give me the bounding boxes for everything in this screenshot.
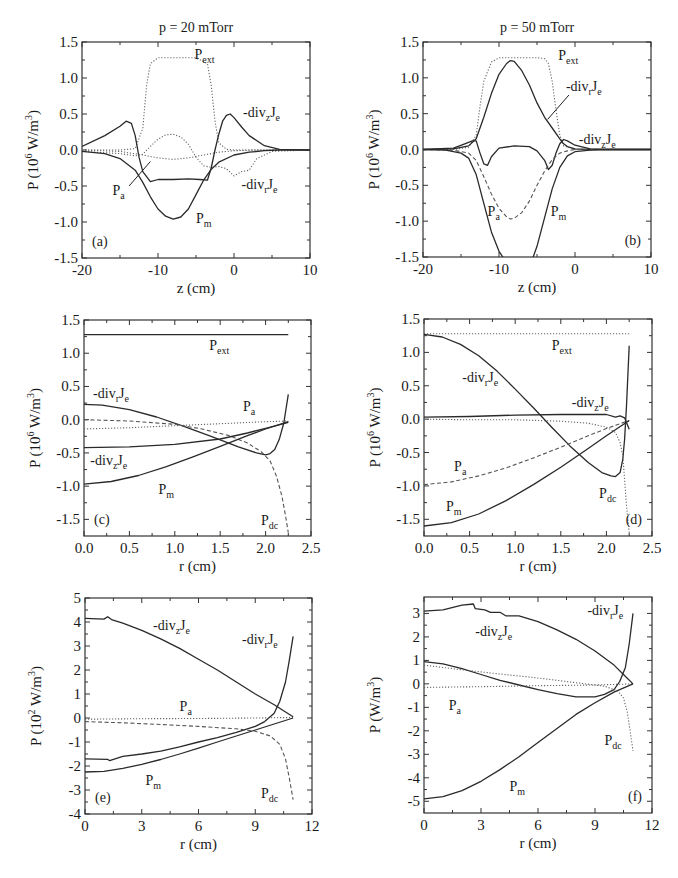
y-tick-label: -5 xyxy=(408,793,421,809)
x-tick-label: 2.5 xyxy=(643,540,662,556)
series-div-r-j-e xyxy=(85,636,293,760)
x-tick-label: 0.0 xyxy=(75,540,94,556)
label-p-a: Pa xyxy=(454,459,467,477)
series-p-a xyxy=(424,421,629,485)
label-p-ext: Pext xyxy=(194,47,214,65)
label-p-ext: Pext xyxy=(552,338,572,356)
column-title-20mtorr: p = 20 mTorr xyxy=(159,20,234,35)
series-p-a xyxy=(423,150,651,220)
panel-f: 036912-5-4-3-2-10123r (cm)P (W/m3)-divzJ… xyxy=(365,597,660,852)
x-tick-label: 3 xyxy=(138,818,146,834)
y-tick-label: -1.5 xyxy=(56,511,80,527)
y-tick-label: 1.5 xyxy=(61,312,80,328)
y-tick-label: 2 xyxy=(74,662,82,678)
label-p-a: Pa xyxy=(243,399,256,417)
x-tick-label: 1.0 xyxy=(165,540,184,556)
y-tick-label: 0.0 xyxy=(401,411,420,427)
y-tick-label: 5 xyxy=(74,590,82,606)
x-tick-label: 6 xyxy=(534,817,542,833)
y-tick-label: -0.5 xyxy=(56,445,80,461)
label-p-a: Pa xyxy=(449,698,462,716)
figure: p = 20 mTorr p = 50 mTorr -20-10010-1.5-… xyxy=(0,0,678,878)
x-tick-label: 10 xyxy=(644,261,659,277)
label-div-r-j: -divrJe xyxy=(566,79,602,97)
panel-label: (f) xyxy=(628,789,642,805)
y-tick-label: 0.5 xyxy=(61,378,80,394)
panel-c: 0.00.51.01.52.02.5-1.5-1.0-0.50.00.51.01… xyxy=(25,312,320,575)
y-tick-label: -1.5 xyxy=(395,249,419,265)
x-tick-label: 12 xyxy=(305,818,320,834)
x-tick-label: 0 xyxy=(230,262,238,278)
x-tick-label: 2.0 xyxy=(256,540,275,556)
series-div-z-j-e xyxy=(84,422,288,447)
x-tick-label: 3 xyxy=(477,817,485,833)
y-tick-label: -3 xyxy=(408,746,421,762)
series-group xyxy=(423,58,651,261)
y-tick-label: -0.5 xyxy=(396,445,420,461)
label-p-m: Pm xyxy=(196,211,212,229)
x-axis-title: r (cm) xyxy=(180,836,217,853)
label-p-dc: Pdc xyxy=(605,733,623,751)
x-tick-label: 0.5 xyxy=(460,540,479,556)
label-p-dc: Pdc xyxy=(599,486,617,504)
y-tick-label: 1 xyxy=(74,686,82,702)
x-tick-label: 2.5 xyxy=(302,540,321,556)
y-tick-label: 1.0 xyxy=(59,70,78,86)
x-tick-label: 2.0 xyxy=(597,540,616,556)
x-tick-label: 9 xyxy=(591,817,599,833)
y-tick-label: 0.0 xyxy=(400,142,419,158)
y-axis-title: P (102 W/m3) xyxy=(26,666,45,746)
panel-label: (a) xyxy=(92,234,108,250)
series-group xyxy=(424,334,629,533)
y-tick-label: 1.5 xyxy=(401,311,420,327)
y-tick-label: 1.0 xyxy=(400,70,419,86)
x-tick-label: 6 xyxy=(195,818,203,834)
label-p-dc: Pdc xyxy=(261,786,279,804)
panel-a: -20-10010-1.5-1.0-0.50.00.51.01.5z (cm)P… xyxy=(23,34,318,297)
series-div-z-j-e xyxy=(423,140,651,170)
label-p-m: Pm xyxy=(551,204,567,222)
series-p-dc xyxy=(84,420,288,533)
panel-label: (d) xyxy=(626,512,643,528)
x-tick-label: 0.5 xyxy=(120,540,139,556)
y-axis-title: P (106 W/m3) xyxy=(365,387,384,467)
y-tick-label: 0.0 xyxy=(59,142,78,158)
y-tick-label: 0.0 xyxy=(61,412,80,428)
label-div-r-j: -divrJe xyxy=(242,177,278,195)
y-tick-label: 2 xyxy=(413,629,421,645)
x-tick-label: -10 xyxy=(148,262,168,278)
series-p-m xyxy=(423,150,651,261)
label-p-m: Pm xyxy=(146,773,162,791)
y-tick-label: 1.0 xyxy=(61,345,80,361)
panel-label: (e) xyxy=(95,790,111,806)
panel-e: 036912-4-3-2-1012345r (cm)P (102 W/m3)-d… xyxy=(26,590,320,853)
label-p-ext: Pext xyxy=(558,48,578,66)
annotation-pointer xyxy=(548,95,569,119)
y-tick-label: 4 xyxy=(74,614,82,630)
label-div-z-j: -divzJe xyxy=(153,618,190,636)
series-group xyxy=(84,335,288,533)
label-p-a: Pa xyxy=(112,183,125,201)
series-div-r-j-e xyxy=(82,134,310,176)
x-tick-label: 1.5 xyxy=(551,540,570,556)
y-tick-label: 1.0 xyxy=(401,344,420,360)
label-div-r-j: -divrJe xyxy=(462,370,498,388)
panel-b: -20-10010-1.5-1.0-0.50.00.51.01.5z (cm)P… xyxy=(364,34,659,296)
label-div-r-j: -divrJe xyxy=(242,632,278,650)
y-tick-label: -0.5 xyxy=(395,177,419,193)
x-tick-label: 0 xyxy=(420,817,428,833)
y-tick-label: -1.0 xyxy=(395,213,419,229)
y-tick-label: -3 xyxy=(69,782,82,798)
y-tick-label: 3 xyxy=(413,605,421,621)
y-tick-label: 1 xyxy=(413,652,421,668)
label-div-r-j: -divrJe xyxy=(93,386,129,404)
label-p-ext: Pext xyxy=(209,338,229,356)
panel-label: (b) xyxy=(625,233,642,249)
y-tick-label: -4 xyxy=(69,806,82,822)
y-axis-title: P (106 W/m3) xyxy=(25,388,44,468)
x-tick-label: 12 xyxy=(645,817,660,833)
y-tick-label: 0.5 xyxy=(401,378,420,394)
y-tick-label: -1 xyxy=(69,734,82,750)
y-tick-label: -1.0 xyxy=(54,214,78,230)
annotation-pointer xyxy=(129,162,150,186)
